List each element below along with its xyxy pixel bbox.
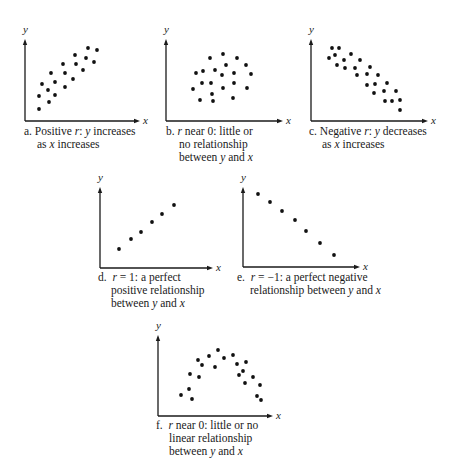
data-point [256,192,260,196]
data-point [343,66,347,70]
data-point [37,107,41,111]
caption-line: a. Positive r: y increases [24,125,136,138]
caption-line: c. Negative r: y decreases [309,125,427,138]
data-point [353,66,357,70]
caption-a: a. Positive r: y increasesas x increases [24,125,136,151]
x-axis-arrow-icon [207,266,213,270]
x-axis-arrow-icon [267,414,273,418]
caption-line: between y and x [98,297,205,310]
data-point [63,85,67,89]
data-point [355,73,359,77]
data-point [117,247,121,251]
y-axis-arrow-icon [98,187,102,193]
data-point [241,369,245,373]
caption-b: b. r near 0: little orno relationshipbet… [166,125,253,164]
data-point [376,73,380,77]
data-point [222,356,226,360]
data-point [268,200,272,204]
data-point [194,71,198,75]
data-point [333,53,337,57]
data-point [358,58,362,62]
panel-d: yx [97,171,221,273]
data-point [196,358,200,362]
data-point [179,393,183,397]
data-point [86,46,90,50]
data-point [213,365,217,369]
caption-line: between y and x [156,445,258,458]
data-point [81,68,85,72]
caption-line: no relationship [166,138,253,151]
data-point [47,100,51,104]
data-point [40,82,44,86]
x-axis-label: x [285,114,291,126]
data-point [49,71,53,75]
data-point [280,209,284,213]
x-axis-arrow-icon [354,265,360,269]
y-axis-arrow-icon [241,187,245,193]
data-point [372,91,376,95]
data-point [224,63,228,67]
data-point [255,394,259,398]
data-point [160,212,164,216]
data-point [74,62,78,66]
data-point [383,99,387,103]
data-point [200,363,204,367]
caption-f: f. r near 0: little or nolinear relation… [156,419,258,458]
data-point [73,53,77,57]
caption-line: f. r near 0: little or no [156,419,258,432]
data-point [318,241,322,245]
data-point [187,387,191,391]
data-point [245,86,249,90]
data-point [335,63,339,67]
data-point [207,354,211,358]
caption-line: as x increases [309,138,427,151]
data-point [251,375,255,379]
data-point [61,62,65,66]
y-axis-arrow-icon [23,39,27,45]
data-point [211,99,215,103]
data-point [197,375,201,379]
data-point [221,86,225,90]
data-point [210,92,214,96]
data-point [198,98,202,102]
panel-c: yx [308,23,436,126]
caption-line: b. r near 0: little or [166,125,253,138]
x-axis-label: x [430,114,436,126]
data-point [216,348,220,352]
data-point [373,82,377,86]
data-point [365,72,369,76]
x-axis-arrow-icon [134,119,140,123]
data-point [382,89,386,93]
data-point [200,81,204,85]
data-point [213,68,217,72]
data-point [244,360,248,364]
data-point [209,81,213,85]
caption-e: e. r = −1: a perfect negativerelationshi… [237,271,381,297]
y-axis-label: y [308,23,314,35]
data-point [330,46,334,50]
caption-line: linear relationship [156,432,258,445]
data-point [243,381,247,385]
y-axis-label: y [97,171,103,183]
data-point [220,73,224,77]
data-point [237,373,241,377]
data-point [231,353,235,357]
data-point [385,81,389,85]
data-point [327,56,331,60]
y-axis-arrow-icon [164,39,168,45]
caption-line: between y and x [166,151,253,164]
data-point [232,81,236,85]
panel-a: yx [22,23,148,126]
data-point [46,88,50,92]
data-point [129,237,133,241]
y-axis-label: y [155,319,161,331]
y-axis-arrow-icon [309,39,313,45]
data-point [249,72,253,76]
caption-line: relationship between y and x [237,284,381,297]
data-point [365,83,369,87]
y-axis-label: y [163,23,169,35]
data-point [258,383,262,387]
caption-line: d. r = 1: a perfect [98,271,205,284]
data-point [71,77,75,81]
y-axis-label: y [22,23,28,35]
